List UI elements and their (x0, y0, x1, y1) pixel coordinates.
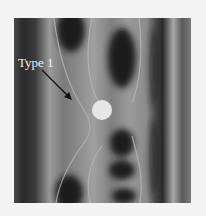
arrow-icon (14, 18, 191, 203)
type-1-label: Type 1 (18, 55, 54, 71)
flow-field-image (14, 18, 191, 203)
